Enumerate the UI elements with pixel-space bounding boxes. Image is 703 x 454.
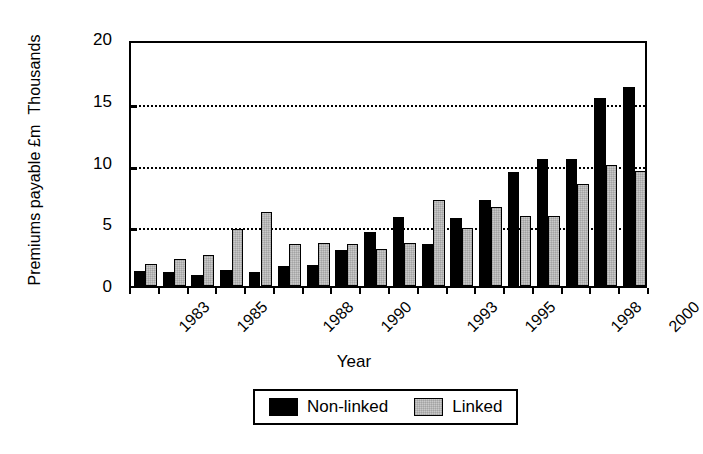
- x-tick-label-1998: 1998: [607, 298, 645, 336]
- bar-1996-linked: [520, 216, 532, 286]
- x-axis-title-text: Year: [337, 352, 371, 372]
- bar-1985-linked: [203, 255, 215, 286]
- x-tick-label-1983: 1983: [176, 298, 214, 336]
- legend-swatch-non-linked-icon: [269, 398, 298, 416]
- bar-2000-non-linked: [623, 87, 635, 286]
- bar-1994-non-linked: [450, 218, 462, 286]
- bar-1988-linked: [289, 244, 301, 286]
- bar-1984-linked: [174, 259, 186, 286]
- bar-1983-non-linked: [134, 271, 146, 286]
- x-tick-label-1990: 1990: [377, 298, 415, 336]
- bar-1986-non-linked: [220, 270, 232, 286]
- bar-1991-linked: [376, 249, 388, 286]
- x-tick-label-1985: 1985: [233, 298, 271, 336]
- bar-1988-non-linked: [278, 266, 290, 286]
- chart-legend: Non-linked Linked: [253, 389, 518, 425]
- legend-swatch-linked-icon: [414, 398, 443, 416]
- bar-1989-non-linked: [307, 265, 319, 286]
- x-axis-tick-labels: 19831985198819901993199519982000: [129, 292, 647, 352]
- bar-1992-linked: [404, 243, 416, 286]
- legend-label-linked: Linked: [452, 397, 502, 417]
- y-tick-label-15: 15: [93, 92, 112, 112]
- bar-1987-linked: [261, 212, 273, 286]
- legend-label-non-linked: Non-linked: [307, 397, 388, 417]
- bar-1995-linked: [491, 207, 503, 286]
- bar-1990-linked: [347, 244, 359, 286]
- bar-1990-non-linked: [335, 250, 347, 286]
- x-tick-label-1993: 1993: [464, 298, 502, 336]
- bar-1998-non-linked: [566, 159, 578, 286]
- bar-1985-non-linked: [191, 275, 203, 286]
- bar-1984-non-linked: [163, 272, 175, 286]
- bar-1991-non-linked: [364, 232, 376, 286]
- y-tick-label-0: 0: [103, 277, 112, 297]
- plot-area: [129, 41, 647, 288]
- x-tick-label-1988: 1988: [320, 298, 358, 336]
- bar-1992-non-linked: [393, 217, 405, 286]
- y-tick-label-20: 20: [93, 30, 112, 50]
- x-tick-18: [647, 288, 649, 294]
- bar-1999-linked: [606, 165, 618, 286]
- bar-2000-linked: [635, 171, 647, 286]
- y-tick-label-5: 5: [103, 215, 112, 235]
- legend-item-linked: Linked: [414, 397, 502, 417]
- y-tick-label-10: 10: [93, 154, 112, 174]
- bar-1993-non-linked: [422, 244, 434, 286]
- bar-series-container: [131, 43, 645, 286]
- y-axis-tick-labels: 05101520: [0, 41, 120, 288]
- bar-1997-non-linked: [537, 159, 549, 286]
- bar-1998-linked: [577, 184, 589, 287]
- bar-1986-linked: [232, 229, 244, 286]
- bar-1983-linked: [145, 264, 157, 286]
- bar-1987-non-linked: [249, 272, 261, 286]
- bar-1994-linked: [462, 228, 474, 286]
- bar-1989-linked: [318, 243, 330, 286]
- bar-1996-non-linked: [508, 172, 520, 286]
- bar-1999-non-linked: [594, 98, 606, 286]
- x-axis-title: Year: [0, 352, 678, 372]
- bar-1993-linked: [433, 200, 445, 286]
- bar-1997-linked: [548, 216, 560, 286]
- bar-1995-non-linked: [479, 200, 491, 286]
- x-tick-label-1995: 1995: [521, 298, 559, 336]
- legend-item-non-linked: Non-linked: [269, 397, 388, 417]
- x-tick-label-2000: 2000: [665, 298, 703, 336]
